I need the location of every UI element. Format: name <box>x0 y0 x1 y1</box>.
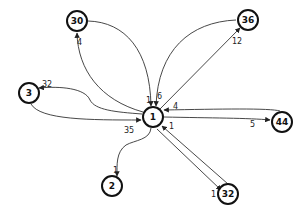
svg-text:32: 32 <box>222 189 235 199</box>
edge-label-1-36: 12 <box>232 37 242 46</box>
node-1[interactable]: 1 <box>143 107 163 127</box>
edge-1-to-3 <box>39 87 142 114</box>
edge-label-1-32: 1 <box>211 190 216 199</box>
edge-44-to-1 <box>164 109 280 111</box>
edge-32-to-1 <box>162 126 228 184</box>
edge-1-to-30 <box>77 33 143 112</box>
edge-30-to-1 <box>88 21 151 106</box>
edge-label-30-1: 1 <box>146 96 151 105</box>
edge-label-1-3: 32 <box>42 80 52 89</box>
node-44[interactable]: 44 <box>272 112 292 132</box>
edge-label-32-1: 1 <box>169 122 174 131</box>
edge-1-to-2 <box>117 128 151 176</box>
node-2[interactable]: 2 <box>102 176 122 196</box>
edge-label-1-30: 4 <box>77 38 82 47</box>
svg-text:44: 44 <box>276 117 289 127</box>
svg-text:1: 1 <box>150 112 156 122</box>
svg-text:2: 2 <box>109 181 115 191</box>
edge-label-1-44: 5 <box>250 120 255 129</box>
node-30[interactable]: 30 <box>67 11 87 31</box>
edge-36-to-1 <box>156 20 236 106</box>
edge-1-to-36 <box>160 28 240 109</box>
edge-label-36-1: 6 <box>157 92 162 101</box>
edge-1-to-32 <box>157 129 221 190</box>
svg-text:30: 30 <box>71 16 84 26</box>
edge-label-3-1: 35 <box>124 126 134 135</box>
node-3[interactable]: 3 <box>19 83 39 103</box>
graph-canvas: 4 1 6 12 32 35 4 5 1 1 1 1 30 36 3 44 2 … <box>0 0 303 216</box>
svg-text:36: 36 <box>242 15 255 25</box>
node-32[interactable]: 32 <box>218 184 238 204</box>
node-36[interactable]: 36 <box>238 10 258 30</box>
svg-text:3: 3 <box>26 88 32 98</box>
edge-label-44-1: 4 <box>173 102 178 111</box>
edge-3-to-1 <box>31 104 141 120</box>
edge-label-1-2: 1 <box>113 166 118 175</box>
